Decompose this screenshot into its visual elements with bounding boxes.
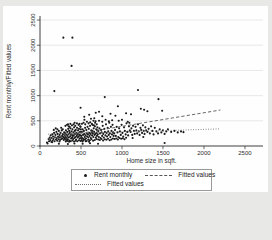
scatter-point (89, 135, 91, 137)
scatter-point (141, 132, 143, 134)
scatter-point (83, 122, 85, 124)
scatter-point (104, 96, 106, 98)
scatter-point (164, 142, 166, 144)
scatter-point (115, 135, 117, 137)
scatter-point (137, 123, 139, 125)
scatter-point (139, 127, 141, 129)
scatter-point (88, 114, 90, 116)
scatter-point (109, 136, 111, 138)
scatter-point (102, 125, 104, 127)
scatter-point (142, 124, 144, 126)
scatter-point (132, 137, 134, 139)
scatter-point (152, 133, 154, 135)
scatter-point (111, 133, 113, 135)
scatter-point (86, 121, 88, 123)
scatter-point (143, 133, 145, 135)
scatter-point (146, 110, 148, 112)
scatter-point (157, 98, 159, 100)
scatter-point (78, 123, 80, 125)
scatter-point (68, 130, 70, 132)
scatter-point (83, 119, 85, 121)
scatter-point (121, 124, 123, 126)
scatter-point (142, 136, 144, 138)
scatter-point (75, 129, 77, 131)
scatter-point (67, 123, 69, 125)
scatter-point (116, 126, 118, 128)
scatter-point (84, 127, 86, 129)
scatter-point (80, 126, 82, 128)
scatter-point (110, 130, 112, 132)
scatter-point (164, 133, 166, 135)
scatter-point (128, 122, 130, 124)
scatter-point (106, 135, 108, 137)
scatter-point (60, 127, 62, 129)
scatter-point (58, 143, 60, 145)
scatter-point (144, 126, 146, 128)
scatter-point (154, 127, 156, 129)
x-tick-label: 2500 (238, 150, 252, 156)
scatter-point (80, 128, 82, 130)
scatter-point (97, 143, 99, 145)
x-tick-label: 2000 (197, 150, 211, 156)
scatter-point (139, 134, 141, 136)
scatter-point (87, 126, 89, 128)
scatter-point (80, 107, 82, 109)
scatter-point (85, 137, 87, 139)
scatter-point (58, 130, 60, 132)
scatter-point (124, 130, 126, 132)
scatter-point (97, 133, 99, 135)
scatter-point (143, 109, 145, 111)
scatter-point (96, 126, 98, 128)
scatter-dot-marker-icon (84, 174, 87, 177)
scatter-point (131, 134, 133, 136)
scatter-point (85, 129, 87, 131)
scatter-point (69, 132, 71, 134)
scatter-point (78, 128, 80, 130)
x-tick-label: 0 (38, 150, 42, 156)
scatter-point (62, 128, 64, 130)
scatter-point (89, 121, 91, 123)
legend: Rent monthly Fitted values Fitted values (71, 169, 212, 191)
scatter-point (67, 128, 69, 130)
scatter-point (53, 129, 55, 131)
scatter-point (71, 65, 73, 67)
scatter-point (123, 126, 125, 128)
scatter-point (93, 117, 95, 119)
y-axis-title: Rent monthly/Fitted values (5, 44, 13, 119)
scatter-point (69, 127, 71, 129)
scatter-point (101, 135, 103, 137)
scatter-point (148, 128, 150, 130)
scatter-point (74, 125, 76, 127)
scatter-point (118, 127, 120, 129)
scatter-point (121, 132, 123, 134)
scatter-point (134, 133, 136, 135)
y-tick-label: 1000 (30, 88, 36, 102)
x-axis-title: Home size in sqft. (126, 157, 176, 165)
scatter-point (74, 122, 76, 124)
scatter-point (134, 126, 136, 128)
scatter-point (182, 131, 184, 133)
scatter-point (46, 142, 48, 144)
legend-row-2: Fitted values (74, 181, 209, 188)
scatter-point (62, 37, 64, 39)
scatter-point (117, 105, 119, 107)
dashed-line-marker-icon (145, 175, 172, 176)
scatter-point (140, 108, 142, 110)
scatter-point (122, 135, 124, 137)
scatter-point (111, 119, 113, 121)
scatter-point (109, 132, 111, 134)
scatter-point (130, 127, 132, 129)
scatter-point (137, 89, 139, 91)
legend-label-fitted-dotted: Fitted values (107, 181, 144, 188)
scatter-point (100, 138, 102, 140)
scatter-point (70, 130, 72, 132)
scatter-point (52, 135, 54, 137)
scatter-point (103, 136, 105, 138)
scatter-point (151, 130, 153, 132)
scatter-point (64, 125, 66, 127)
scatter-point (93, 127, 95, 129)
scatter-point (102, 133, 104, 135)
scatter-point (53, 90, 55, 92)
scatter-point (82, 143, 84, 145)
scatter-point (130, 113, 132, 115)
